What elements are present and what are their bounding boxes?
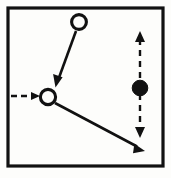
open-circle-top [72,15,87,30]
figure-container [0,0,171,178]
filled-circle-right [132,80,148,96]
open-circle-middle-left [40,89,55,104]
diagram-canvas [0,0,171,178]
